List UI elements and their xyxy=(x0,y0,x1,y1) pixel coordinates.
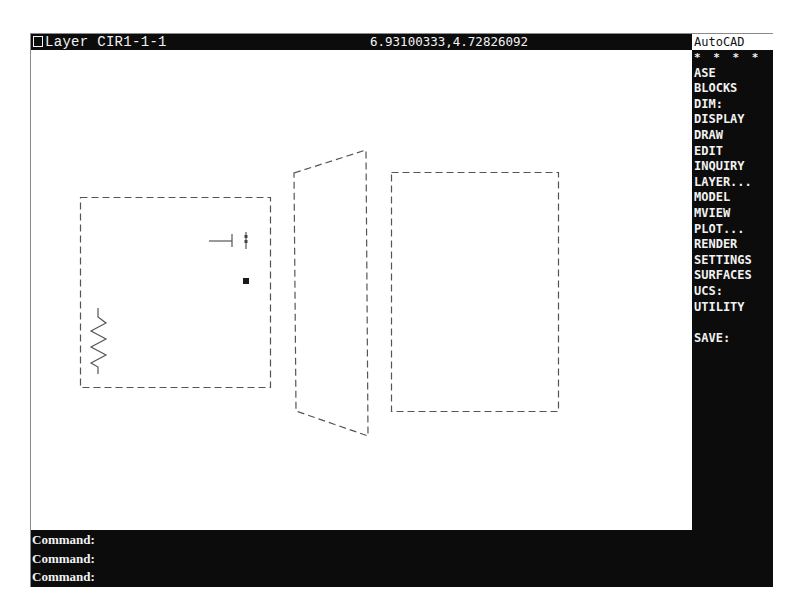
drawing-canvas[interactable] xyxy=(31,50,692,530)
menu-item-stars[interactable]: * * * * xyxy=(694,50,773,66)
menu-item-utility[interactable]: UTILITY xyxy=(694,300,773,316)
menu-item-settings[interactable]: SETTINGS xyxy=(694,253,773,269)
menu-bottom-strip xyxy=(692,530,773,587)
menu-item-mview[interactable]: MVIEW xyxy=(694,206,773,222)
menu-item-ase[interactable]: ASE xyxy=(694,66,773,82)
grip-square[interactable] xyxy=(243,278,249,284)
side-menu-header[interactable]: AutoCAD xyxy=(692,34,773,50)
command-line-3[interactable]: Command: xyxy=(31,568,692,587)
menu-item-blocks[interactable]: BLOCKS xyxy=(694,81,773,97)
left-viewport-box[interactable] xyxy=(81,198,271,388)
command-line-2: Command: xyxy=(31,550,692,569)
t-junction-line[interactable] xyxy=(209,234,232,247)
screen-menu: * * * * ASE BLOCKS DIM: DISPLAY DRAW EDI… xyxy=(692,50,773,587)
menu-item-render[interactable]: RENDER xyxy=(694,237,773,253)
perspective-plane[interactable] xyxy=(294,150,368,436)
menu-item-ucs[interactable]: UCS: xyxy=(694,284,773,300)
cursor-coordinates: 6.93100333,4.72826092 xyxy=(370,34,528,50)
menu-item-layer[interactable]: LAYER... xyxy=(694,175,773,191)
menu-item-draw[interactable]: DRAW xyxy=(694,128,773,144)
layer-color-swatch[interactable] xyxy=(33,36,43,47)
menu-item-plot[interactable]: PLOT... xyxy=(694,222,773,238)
menu-item-display[interactable]: DISPLAY xyxy=(694,112,773,128)
menu-item-inquiry[interactable]: INQUIRY xyxy=(694,159,773,175)
command-line-area[interactable]: Command: Command: Command: xyxy=(31,530,692,587)
status-bar: Layer CIR1-1-1 6.93100333,4.72826092 xyxy=(31,34,692,50)
vertical-marker[interactable] xyxy=(245,232,248,249)
menu-item-dim[interactable]: DIM: xyxy=(694,97,773,113)
autocad-screen: Layer CIR1-1-1 6.93100333,4.72826092 Aut… xyxy=(30,33,773,587)
current-layer-label[interactable]: Layer CIR1-1-1 xyxy=(45,34,167,50)
menu-item-surfaces[interactable]: SURFACES xyxy=(694,268,773,284)
right-viewport-box[interactable] xyxy=(392,173,559,412)
menu-spacer xyxy=(694,315,773,331)
menu-item-model[interactable]: MODEL xyxy=(694,190,773,206)
menu-item-save[interactable]: SAVE: xyxy=(694,331,773,347)
zigzag-resistor[interactable] xyxy=(91,308,106,374)
menu-item-edit[interactable]: EDIT xyxy=(694,144,773,160)
drawing-svg xyxy=(31,50,692,530)
command-line-1: Command: xyxy=(31,531,692,550)
